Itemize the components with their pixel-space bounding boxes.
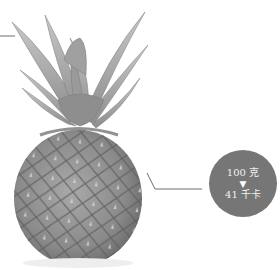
down-arrow-icon: ▼: [240, 179, 247, 189]
pineapple-image: [0, 0, 280, 270]
calorie-callout: 100 克 ▼ 41 千卡: [209, 150, 277, 217]
nutrition-figure: 100 克 ▼ 41 千卡: [0, 0, 280, 270]
calorie-value: 41 千卡: [225, 189, 261, 201]
pineapple-crown: [12, 12, 148, 128]
serving-amount: 100 克: [227, 167, 259, 179]
